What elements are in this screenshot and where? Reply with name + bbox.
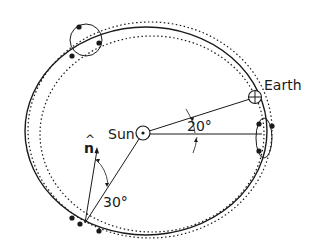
normal-vector [85,150,97,223]
angle-arrow-icon [194,138,198,142]
sun-label: Sun [108,126,135,142]
normal-arrowhead-icon [95,147,100,154]
position-dot [77,221,82,226]
position-dot [256,121,261,126]
sun-center-dot [141,131,144,134]
orbit-diagram: Sun Earth 20° 30° n ^ [0,0,316,251]
normal-hat-label: ^ [85,133,95,147]
position-dot [76,24,81,29]
position-dot [69,53,74,58]
position-dot [269,123,274,128]
position-dot [96,228,101,233]
angle-arc-30 [96,160,108,184]
position-dot [69,215,74,220]
earth-label: Earth [264,77,302,93]
position-dot [256,148,261,153]
angle-label-30: 30° [103,194,128,210]
position-dot [96,40,101,45]
angle-label-20: 20° [187,118,212,134]
